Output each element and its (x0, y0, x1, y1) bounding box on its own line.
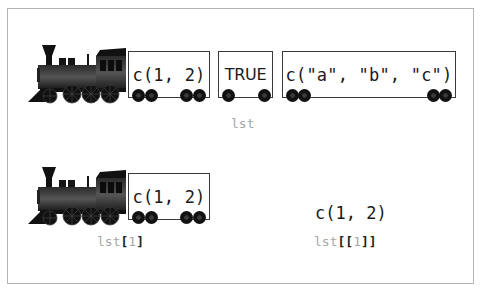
steam-locomotive-icon (28, 166, 128, 226)
wheel-icon (132, 89, 145, 102)
wheel-icon (132, 211, 145, 224)
car-label: c("a", "b", "c") (283, 65, 455, 85)
extracted-element: c(1, 2) (315, 203, 387, 223)
wheel-icon (258, 89, 271, 102)
caption-lst-single-bracket: lst[1] (97, 234, 144, 249)
wheel-icon (193, 89, 206, 102)
wheel-icon (439, 89, 452, 102)
steam-locomotive-icon (28, 44, 128, 104)
caption-index: 1 (128, 234, 136, 249)
caption-name: lst (314, 234, 337, 249)
close-bracket: ]] (361, 234, 377, 249)
car-label: c(1, 2) (129, 65, 209, 85)
car-label: TRUE (219, 65, 272, 84)
caption-lst-double-bracket: lst[[1]] (314, 234, 377, 249)
wheel-icon (298, 89, 311, 102)
wheel-icon (193, 211, 206, 224)
wheel-icon (145, 89, 158, 102)
wheel-icon (145, 211, 158, 224)
car-label: c(1, 2) (129, 187, 209, 207)
close-bracket: ] (136, 234, 144, 249)
wheel-icon (180, 211, 193, 224)
wheel-icon (180, 89, 193, 102)
caption-index: 1 (353, 234, 361, 249)
caption-name: lst (97, 234, 120, 249)
open-bracket: [[ (337, 234, 353, 249)
wheel-icon (222, 89, 235, 102)
caption-lst: lst (231, 116, 254, 131)
